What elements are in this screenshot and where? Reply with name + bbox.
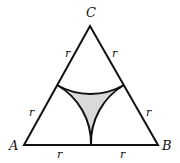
side-label-ab-right: r	[120, 148, 126, 161]
side-label-ab-left: r	[57, 148, 63, 161]
triangle-diagram: C A B r r r r r r	[0, 0, 180, 163]
side-label-ac-upper: r	[65, 47, 71, 60]
vertex-label-b: B	[161, 138, 172, 153]
vertex-label-a: A	[8, 138, 18, 153]
side-label-ac-lower: r	[29, 106, 35, 119]
side-label-bc-upper: r	[112, 47, 118, 60]
vertex-label-c: C	[86, 5, 96, 20]
side-label-bc-lower: r	[146, 106, 152, 119]
